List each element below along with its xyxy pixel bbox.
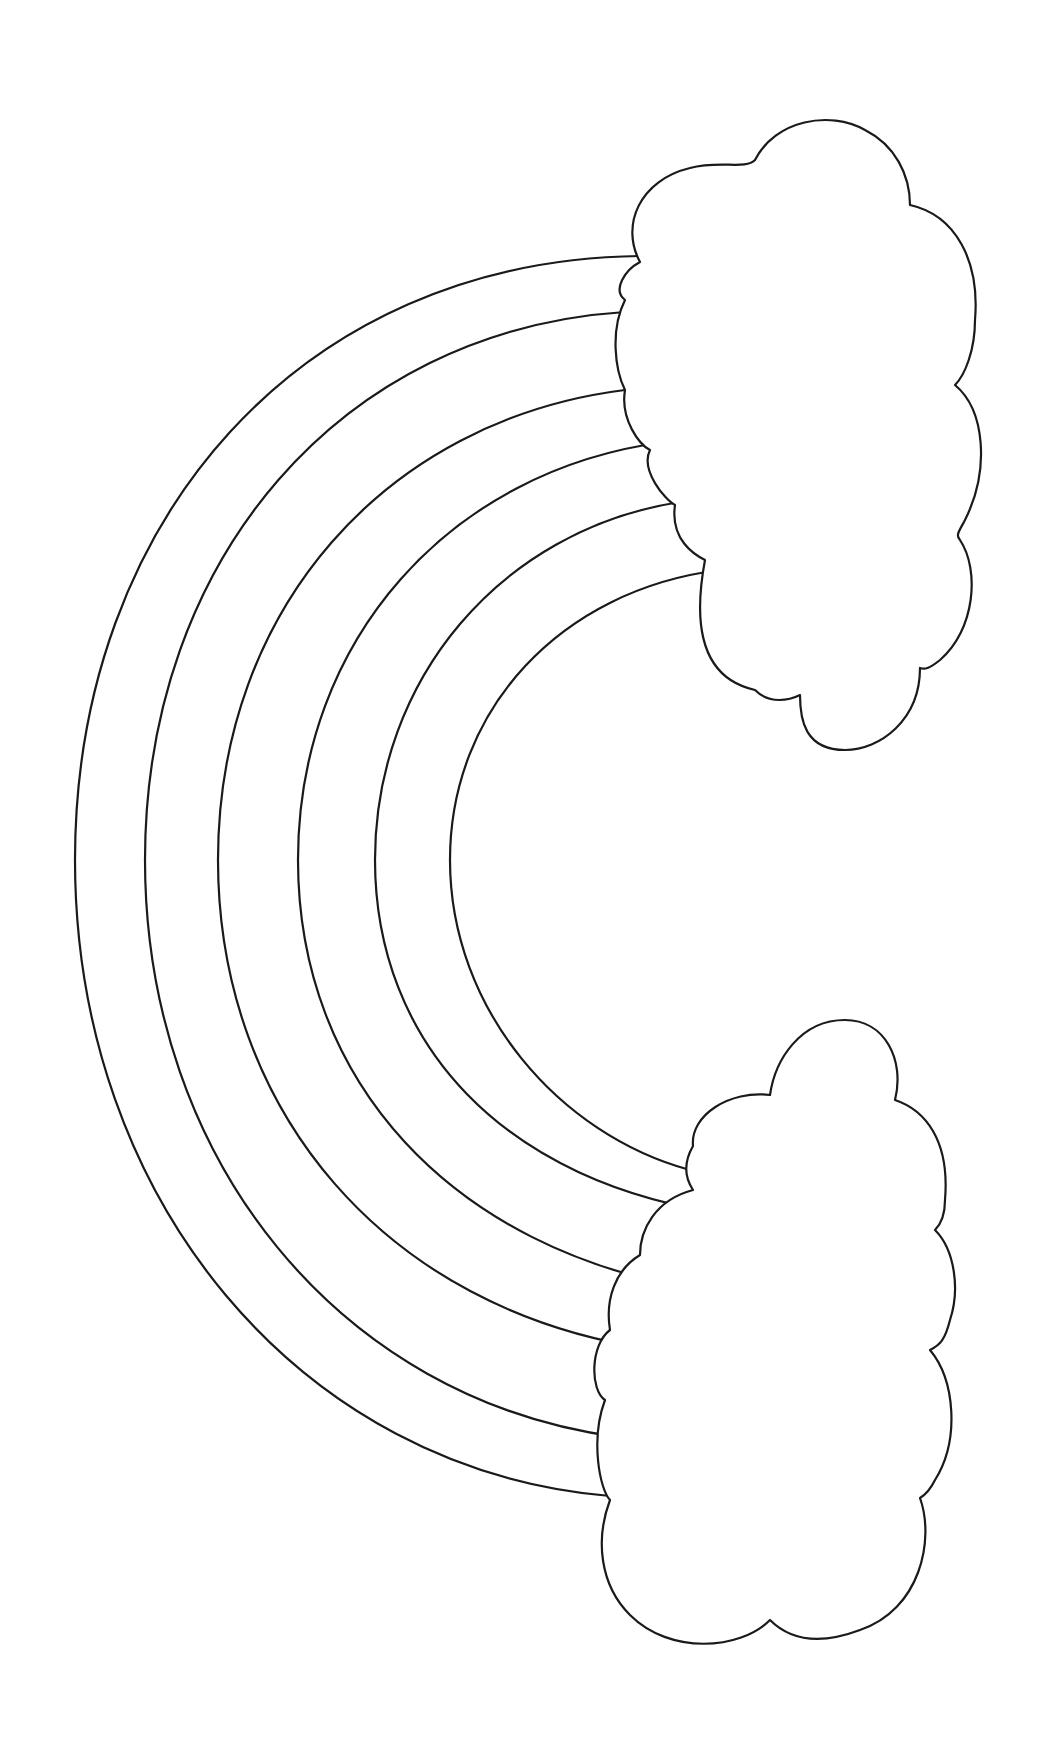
coloring-page xyxy=(0,0,1053,1762)
rainbow-arc-5 xyxy=(375,502,733,1215)
rainbow-arc-4 xyxy=(298,442,700,1290)
rainbow-arc-2 xyxy=(145,312,625,1437)
rainbow-drawing xyxy=(0,0,1053,1762)
bottom-cloud xyxy=(594,1020,955,1644)
rainbow-arc-6 xyxy=(450,570,720,1170)
top-cloud xyxy=(616,120,981,750)
rainbow-arc-3 xyxy=(218,390,650,1349)
rainbow-arc-1 xyxy=(75,256,640,1496)
